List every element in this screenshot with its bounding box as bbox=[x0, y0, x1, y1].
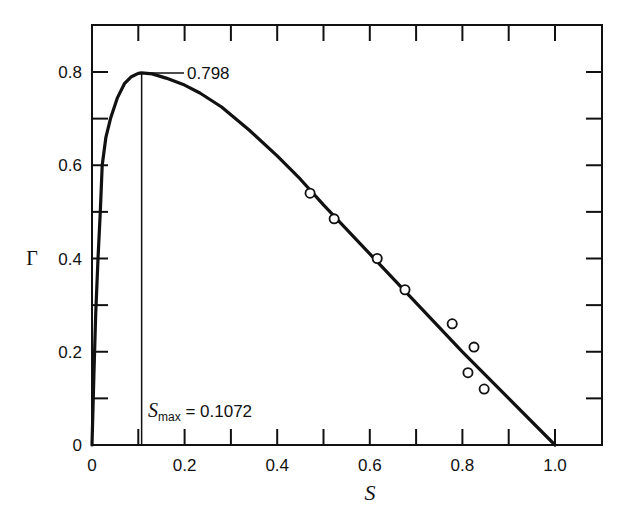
x-tick-label: 0.4 bbox=[265, 456, 289, 475]
smax-symbol: S bbox=[148, 399, 158, 421]
x-tick-labels: 00.20.40.60.81.0 bbox=[87, 456, 567, 475]
data-point-circle bbox=[463, 368, 472, 377]
data-point-circle bbox=[330, 214, 339, 223]
smax-value: = 0.1072 bbox=[181, 402, 252, 421]
y-tick-label: 0.4 bbox=[58, 250, 82, 269]
data-point-circle bbox=[469, 342, 478, 351]
plot-frame bbox=[92, 25, 602, 445]
axis-ticks bbox=[92, 25, 602, 445]
x-tick-label: 0.2 bbox=[173, 456, 197, 475]
y-tick-label: 0.6 bbox=[58, 156, 82, 175]
y-axis-title: Γ bbox=[26, 247, 38, 269]
y-tick-labels: 00.20.40.60.8 bbox=[58, 63, 82, 455]
y-tick-label: 0.8 bbox=[58, 63, 82, 82]
smax-label: Smax = 0.1072 bbox=[148, 399, 252, 424]
data-point-circle bbox=[305, 189, 314, 198]
x-tick-label: 0 bbox=[87, 456, 96, 475]
y-tick-label: 0 bbox=[73, 436, 82, 455]
plot-border bbox=[92, 25, 602, 445]
data-point-circle bbox=[448, 319, 457, 328]
x-tick-label: 0.8 bbox=[451, 456, 475, 475]
data-point-circle bbox=[400, 285, 409, 294]
x-axis-title: S bbox=[365, 480, 376, 505]
data-point-circle bbox=[480, 384, 489, 393]
smax-subscript: max bbox=[158, 410, 181, 424]
y-tick-label: 0.2 bbox=[58, 343, 82, 362]
data-points bbox=[305, 189, 488, 394]
data-point-circle bbox=[373, 254, 382, 263]
x-tick-label: 0.6 bbox=[358, 456, 382, 475]
peak-value-label: 0.798 bbox=[187, 64, 230, 83]
x-tick-label: 1.0 bbox=[543, 456, 567, 475]
chart-canvas: 00.20.40.60.81.0 00.20.40.60.8 0.798 Sma… bbox=[0, 0, 617, 513]
